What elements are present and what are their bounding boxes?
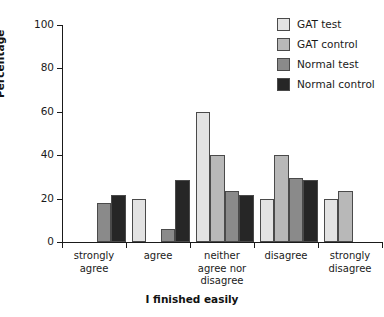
x-tick-mark xyxy=(382,242,383,248)
y-axis-title: Percentage xyxy=(0,29,6,98)
legend-label: GAT test xyxy=(297,18,341,30)
legend-swatch-icon xyxy=(277,78,290,91)
x-tick-label-line: disagree xyxy=(312,263,384,276)
x-tick-label: stronglydisagree xyxy=(312,250,384,275)
bar xyxy=(97,203,112,242)
legend-label: GAT control xyxy=(297,38,358,50)
x-tick-mark xyxy=(62,242,63,248)
y-tick: 0 xyxy=(0,242,62,243)
y-tick-label: 80 xyxy=(41,61,54,74)
x-tick-mark xyxy=(126,242,127,248)
legend-item[interactable]: GAT control xyxy=(277,34,375,54)
bar xyxy=(303,180,318,242)
bar xyxy=(324,199,339,242)
y-tick-label: 20 xyxy=(41,192,54,205)
legend-swatch-icon xyxy=(277,58,290,71)
bar-group xyxy=(62,25,126,242)
bar xyxy=(161,229,176,242)
bar xyxy=(111,195,126,242)
bar xyxy=(289,178,304,242)
legend-item[interactable]: Normal control xyxy=(277,74,375,94)
bar xyxy=(175,180,190,242)
legend-swatch-icon xyxy=(277,18,290,31)
bar-group xyxy=(126,25,190,242)
bar xyxy=(210,155,225,242)
legend-label: Normal test xyxy=(297,58,359,70)
y-tick-label: 60 xyxy=(41,105,54,118)
legend-item[interactable]: Normal test xyxy=(277,54,375,74)
y-tick: 40 xyxy=(0,155,62,156)
x-tick-label-line: disagree xyxy=(184,275,260,288)
bar xyxy=(132,199,147,242)
bar-group xyxy=(190,25,254,242)
x-axis-line xyxy=(62,242,383,243)
y-tick-label: 40 xyxy=(41,148,54,161)
x-tick-mark xyxy=(190,242,191,248)
legend-label: Normal control xyxy=(297,78,375,90)
bar-chart: Percentage 020406080100 stronglyagreeagr… xyxy=(0,0,384,317)
x-tick-mark xyxy=(318,242,319,248)
x-tick-label-line: agree nor xyxy=(184,263,260,276)
x-axis-title: I finished easily xyxy=(0,293,384,305)
legend-swatch-icon xyxy=(277,38,290,51)
y-tick-label: 0 xyxy=(47,235,54,248)
y-tick: 60 xyxy=(0,112,62,113)
x-tick-label-line: strongly xyxy=(312,250,384,263)
bar xyxy=(239,195,254,242)
legend: GAT testGAT controlNormal testNormal con… xyxy=(277,14,375,94)
y-tick: 100 xyxy=(0,25,62,26)
y-tick: 20 xyxy=(0,199,62,200)
x-tick-mark xyxy=(254,242,255,248)
bar xyxy=(338,191,353,242)
bar xyxy=(225,191,240,242)
bar xyxy=(196,112,211,242)
bar xyxy=(274,155,289,242)
y-tick: 80 xyxy=(0,68,62,69)
y-tick-label: 100 xyxy=(34,18,54,31)
bar xyxy=(260,199,275,242)
legend-item[interactable]: GAT test xyxy=(277,14,375,34)
x-tick-label-line: agree xyxy=(56,263,132,276)
